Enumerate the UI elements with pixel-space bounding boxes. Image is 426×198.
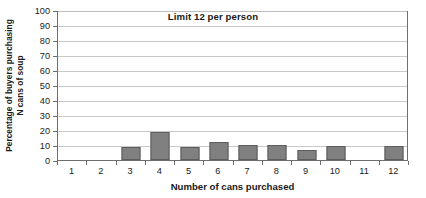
bar-slot bbox=[380, 11, 409, 160]
bar-slot bbox=[351, 11, 380, 160]
bar bbox=[122, 147, 141, 160]
x-tick-label: 2 bbox=[98, 166, 103, 176]
x-tick-mark bbox=[350, 161, 351, 165]
bar bbox=[239, 145, 258, 160]
x-tick-label: 8 bbox=[274, 166, 279, 176]
bar bbox=[385, 146, 404, 160]
y-axis-ticks: 0102030405060708090100 bbox=[0, 0, 57, 198]
bar-slot bbox=[321, 11, 350, 160]
x-tick-mark bbox=[379, 161, 380, 165]
y-tick-label: 80 bbox=[40, 36, 50, 46]
x-axis-title: Number of cans purchased bbox=[57, 181, 408, 192]
y-tick-label: 0 bbox=[45, 156, 50, 166]
x-tick-label: 11 bbox=[359, 166, 369, 176]
bar-slot bbox=[292, 11, 321, 160]
x-tick-mark bbox=[233, 161, 234, 165]
bar bbox=[209, 142, 228, 160]
x-tick-label: 6 bbox=[215, 166, 220, 176]
x-tick-mark bbox=[57, 161, 58, 165]
chart-title: Limit 12 per person bbox=[0, 11, 426, 22]
y-tick-label: 60 bbox=[40, 66, 50, 76]
x-tick-label: 1 bbox=[69, 166, 74, 176]
bar-series bbox=[58, 11, 407, 160]
bar bbox=[297, 150, 316, 161]
bar-slot bbox=[117, 11, 146, 160]
bar-slot bbox=[58, 11, 87, 160]
bar-slot bbox=[263, 11, 292, 160]
bar bbox=[180, 147, 199, 160]
x-tick-label: 3 bbox=[128, 166, 133, 176]
x-axis-ticks: 123456789101112 bbox=[57, 161, 408, 183]
bar bbox=[151, 132, 170, 161]
y-tick-label: 30 bbox=[40, 111, 50, 121]
x-tick-mark bbox=[262, 161, 263, 165]
y-tick-label: 20 bbox=[40, 126, 50, 136]
x-tick-label: 4 bbox=[157, 166, 162, 176]
x-tick-label: 9 bbox=[303, 166, 308, 176]
y-tick-label: 50 bbox=[40, 81, 50, 91]
x-tick-mark bbox=[145, 161, 146, 165]
y-tick-label: 90 bbox=[40, 21, 50, 31]
x-tick-mark bbox=[408, 161, 409, 165]
bar-slot bbox=[175, 11, 204, 160]
x-tick-mark bbox=[203, 161, 204, 165]
y-tick-label: 70 bbox=[40, 51, 50, 61]
bar bbox=[326, 146, 345, 160]
x-tick-mark bbox=[174, 161, 175, 165]
bar-slot bbox=[87, 11, 116, 160]
y-tick-label: 10 bbox=[40, 141, 50, 151]
plot-area bbox=[57, 11, 408, 161]
bar-slot bbox=[204, 11, 233, 160]
y-tick-label: 40 bbox=[40, 96, 50, 106]
x-tick-label: 5 bbox=[186, 166, 191, 176]
x-tick-mark bbox=[116, 161, 117, 165]
x-tick-mark bbox=[320, 161, 321, 165]
bar-slot bbox=[146, 11, 175, 160]
x-tick-mark bbox=[291, 161, 292, 165]
bar bbox=[268, 145, 287, 160]
x-tick-label: 12 bbox=[388, 166, 398, 176]
bar-chart: Percentage of buyers purchasing N cans o… bbox=[0, 0, 426, 198]
x-tick-label: 10 bbox=[330, 166, 340, 176]
bar-slot bbox=[234, 11, 263, 160]
x-tick-label: 7 bbox=[245, 166, 250, 176]
x-tick-mark bbox=[86, 161, 87, 165]
